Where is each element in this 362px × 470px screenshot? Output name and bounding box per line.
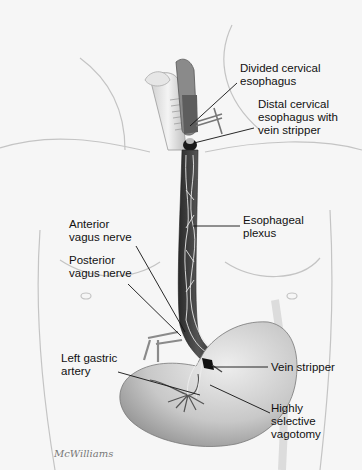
left-neck-line [80, 58, 125, 150]
label-left-gastric-artery: Left gastric artery [61, 352, 117, 378]
leader-distal-cervical [194, 128, 254, 143]
label-anterior-vagus-nerve: Anterior vagus nerve [69, 218, 132, 244]
label-vein-stripper: Vein stripper [271, 361, 335, 374]
artist-signature: McWilliams [54, 448, 113, 459]
right-torso-side [320, 210, 332, 470]
clamps [144, 332, 182, 362]
right-shoulder [205, 142, 362, 152]
label-distal-cervical-esophagus: Distal cervical esophagus with vein stri… [258, 98, 338, 137]
left-nipple [81, 293, 91, 299]
label-esophageal-plexus: Esophageal plexus [243, 214, 304, 240]
label-posterior-vagus-nerve: Posterior vagus nerve [69, 254, 132, 280]
left-shoulder [0, 139, 150, 152]
right-nipple [287, 293, 297, 299]
label-divided-cervical-esophagus: Divided cervical esophagus [240, 62, 321, 88]
right-pectoral [225, 258, 320, 277]
leader-posterior-vagus [128, 284, 181, 336]
neck-instruments [196, 108, 222, 134]
leader-anterior-vagus [136, 246, 185, 332]
left-torso-side [38, 230, 55, 470]
label-highly-selective-vagotomy: Highly selective vagotomy [271, 402, 321, 441]
